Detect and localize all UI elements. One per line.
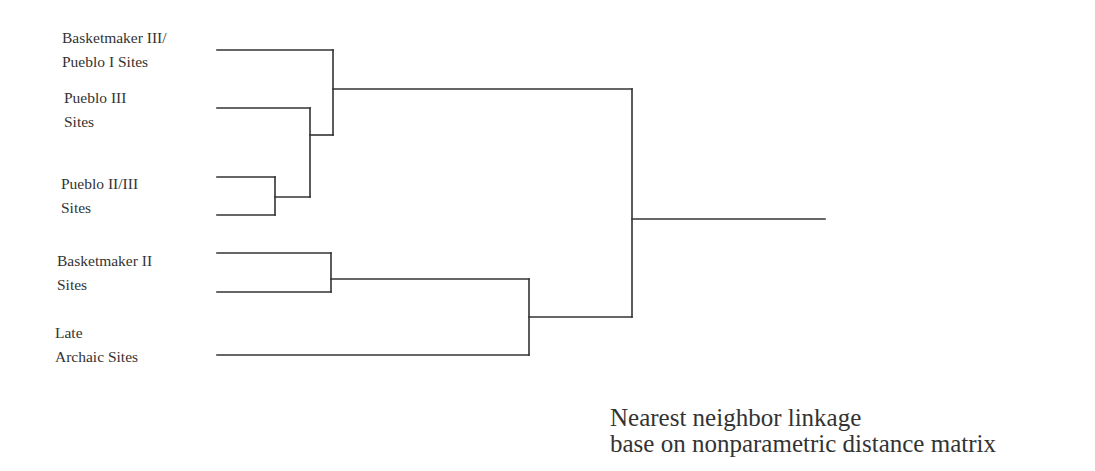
- leaf-label-late-archaic: Late Archaic Sites: [55, 321, 138, 369]
- figure-caption: Nearest neighbor linkage base on nonpara…: [610, 405, 996, 457]
- leaf-label-bm2: Basketmaker II Sites: [57, 249, 152, 297]
- leaf-label-p2p3: Pueblo II/III Sites: [61, 172, 138, 220]
- caption-line-2: base on nonparametric distance matrix: [610, 431, 996, 457]
- dendrogram-figure: Basketmaker III/ Pueblo I Sites Pueblo I…: [0, 0, 1095, 471]
- caption-line-1: Nearest neighbor linkage: [610, 405, 996, 431]
- leaf-label-p3: Pueblo III Sites: [64, 86, 126, 134]
- leaf-label-bm3-p1: Basketmaker III/ Pueblo I Sites: [62, 26, 167, 74]
